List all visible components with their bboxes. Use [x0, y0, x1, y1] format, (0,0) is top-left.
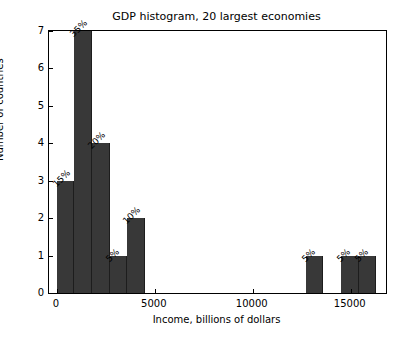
y-tick-mark: [49, 68, 53, 69]
x-tick-mark: [253, 289, 254, 293]
histogram-bar: [92, 143, 110, 293]
y-tick-label: 4: [24, 137, 44, 148]
y-tick-mark: [49, 31, 53, 32]
y-tick-label: 2: [24, 212, 44, 223]
plot-area: 15%35%20%5%10%5%5%5%: [48, 30, 387, 294]
histogram-bar: [57, 181, 75, 293]
chart-figure: GDP histogram, 20 largest economies Numb…: [0, 0, 406, 337]
x-tick-mark: [155, 289, 156, 293]
x-tick-label: 10000: [236, 298, 268, 309]
y-tick-label: 1: [24, 249, 44, 260]
chart-title: GDP histogram, 20 largest economies: [48, 10, 385, 23]
x-tick-label: 5000: [141, 298, 166, 309]
histogram-bar: [74, 31, 92, 293]
y-tick-label: 7: [24, 25, 44, 36]
y-tick-mark: [49, 293, 53, 294]
x-tick-label: 15000: [334, 298, 366, 309]
y-tick-mark: [49, 106, 53, 107]
x-tick-mark: [57, 289, 58, 293]
y-tick-label: 3: [24, 174, 44, 185]
y-tick-mark: [49, 181, 53, 182]
x-tick-mark: [351, 289, 352, 293]
y-tick-label: 5: [24, 99, 44, 110]
y-tick-label: 0: [24, 287, 44, 298]
y-tick-mark: [49, 218, 53, 219]
y-tick-label: 6: [24, 62, 44, 73]
histogram-bar: [127, 218, 145, 293]
x-axis-label: Income, billions of dollars: [48, 314, 385, 325]
y-axis-label: Number of countries: [0, 58, 5, 161]
x-tick-label: 0: [53, 298, 59, 309]
y-tick-mark: [49, 143, 53, 144]
y-tick-mark: [49, 256, 53, 257]
